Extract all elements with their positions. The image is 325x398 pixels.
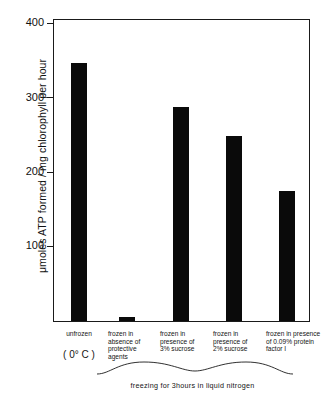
- y-tick-label-200: 200: [4, 166, 44, 177]
- plot-area: [53, 19, 310, 322]
- bracket-caption: freezing for 3hours in liquid nitrogen: [60, 381, 325, 390]
- x-sublabel-unfrozen: ( 0° C ): [52, 349, 106, 360]
- x-label-3pct-sucrose: frozen in presence of 3% sucrose: [160, 330, 204, 353]
- x-label-protein-factor-i: frozen in presence of 0.09% protein fact…: [266, 330, 322, 353]
- y-tick-label-300: 300: [4, 92, 44, 103]
- grouping-bracket-icon: [96, 360, 294, 378]
- y-tick-label-400: 400: [4, 17, 44, 28]
- x-label-no-protective-agents: frozen in absence of protective agents: [108, 330, 152, 360]
- bar-3pct-sucrose: [173, 107, 189, 321]
- bar-protein-factor-i: [279, 191, 295, 321]
- bar-2pct-sucrose: [226, 136, 242, 321]
- y-tick-label-100: 100: [4, 240, 44, 251]
- bar-no-protective-agents: [119, 317, 135, 321]
- bar-unfrozen: [71, 63, 87, 321]
- bar-chart-figure: μmoles ATP formed / mg chlorophyll per h…: [0, 0, 325, 398]
- x-label-unfrozen: unfrozen: [52, 330, 106, 338]
- x-label-2pct-sucrose: frozen in presence of 2% sucrose: [213, 330, 257, 353]
